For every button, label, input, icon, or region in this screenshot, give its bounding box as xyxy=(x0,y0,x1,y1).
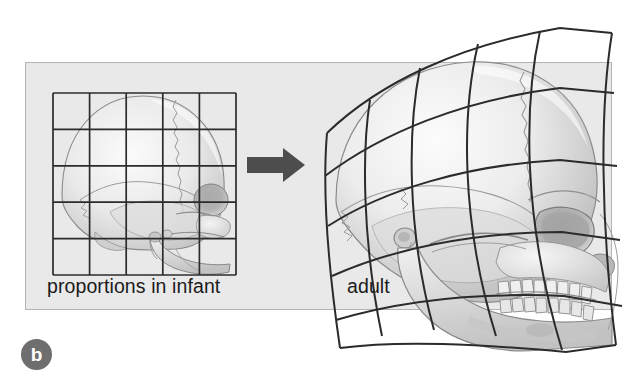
panel-letter-badge: b xyxy=(21,339,52,370)
infant-caption-label: proportions in infant xyxy=(47,277,220,297)
adult-caption-label: adult xyxy=(347,277,390,297)
figure-illustration xyxy=(0,0,637,383)
figure-panel-b: proportions in infant adult b xyxy=(0,0,637,383)
